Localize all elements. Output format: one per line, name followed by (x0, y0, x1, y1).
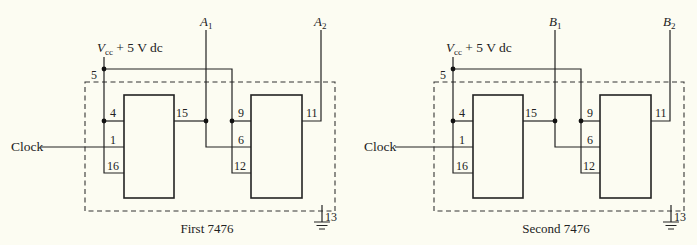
circuit-caption: Second 7476 (522, 221, 590, 236)
second-7476-circuit: Vcc + 5 V dc 5 Clock B1 B2 4 1 16 15 9 6… (364, 14, 686, 236)
clock-label: Clock (11, 139, 43, 154)
b1-output-wire (555, 30, 600, 147)
flip-flop-1 (124, 95, 174, 198)
pin-label: 12 (583, 159, 595, 173)
circuit-diagram: Vcc + 5 V dc 5 Clock A1 A2 4 1 16 15 9 6… (0, 0, 697, 245)
pin-label: 11 (306, 106, 318, 120)
first-7476-circuit: Vcc + 5 V dc 5 Clock A1 A2 4 1 16 15 9 6… (11, 14, 337, 236)
supply-pin-label: 5 (91, 68, 97, 82)
flip-flop-2 (251, 95, 302, 198)
junction-dot (451, 119, 456, 124)
junction-dot (451, 67, 456, 72)
pin-label: 4 (110, 106, 116, 120)
pin-label: 1 (110, 133, 116, 147)
junction-dot (102, 119, 107, 124)
pin-label: 12 (234, 159, 246, 173)
pin-label: 16 (456, 159, 468, 173)
vcc-label: Vcc + 5 V dc (446, 40, 512, 57)
pin-label: 4 (459, 106, 465, 120)
output-a2-label: A2 (313, 14, 326, 31)
pin-label: 16 (107, 159, 119, 173)
pin-label: 9 (238, 106, 244, 120)
clock-label: Clock (364, 139, 396, 154)
a1-output-wire (206, 30, 251, 147)
pin-label: 1 (459, 133, 465, 147)
junction-dot (553, 119, 558, 124)
junction-dot (204, 119, 209, 124)
ground-pin-label: 13 (674, 210, 686, 224)
junction-dot (579, 119, 584, 124)
pin-label: 9 (587, 106, 593, 120)
output-b2-label: B2 (663, 14, 675, 31)
ground-pin-label: 13 (325, 210, 337, 224)
pin-label: 6 (238, 133, 244, 147)
output-a1-label: A1 (199, 14, 212, 31)
pin-label: 11 (655, 106, 667, 120)
vcc-label: Vcc + 5 V dc (97, 40, 163, 57)
circuit-caption: First 7476 (180, 221, 234, 236)
flip-flop-1 (473, 95, 523, 198)
junction-dot (230, 119, 235, 124)
supply-pin-label: 5 (440, 68, 446, 82)
flip-flop-2 (600, 95, 651, 198)
output-b1-label: B1 (549, 14, 561, 31)
pin-label: 15 (525, 106, 537, 120)
pin-label: 6 (587, 133, 593, 147)
junction-dot (102, 67, 107, 72)
pin-label: 15 (176, 106, 188, 120)
